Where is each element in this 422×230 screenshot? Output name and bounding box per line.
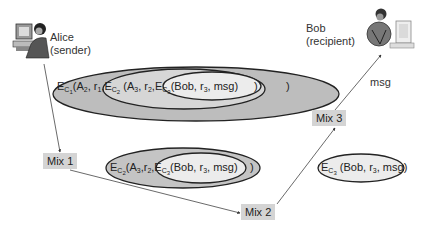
bob-computer-icon <box>367 9 414 49</box>
onion-after-mix2-text: EC3 (Bob, r3, msg) <box>321 161 407 180</box>
mix-1-node: Mix 1 <box>43 153 77 169</box>
bob-name: Bob <box>306 22 326 35</box>
mix-3-node: Mix 3 <box>312 110 346 126</box>
bob-role: (recipient) <box>306 35 355 48</box>
mix-2-node: Mix 2 <box>241 204 275 220</box>
onion-full-close-1: ) <box>286 80 290 93</box>
alice-role: (sender) <box>50 44 91 57</box>
onion-full-close-2: ) <box>254 80 258 93</box>
alice-computer-icon <box>13 23 49 58</box>
onion-after-mix1-close: ) <box>250 161 254 174</box>
edge-alice-mix1 <box>44 64 60 152</box>
onion-after-mix1-text: EC2(A3,r2,EC3(Bob, r3, msg) <box>110 161 238 180</box>
edge-label-msg: msg <box>370 76 391 89</box>
onion-full-text: EC1(A2, r1,EC2 (A3, r2,EC3(Bob, r3, msg) <box>57 80 238 99</box>
alice-name: Alice <box>50 31 74 44</box>
